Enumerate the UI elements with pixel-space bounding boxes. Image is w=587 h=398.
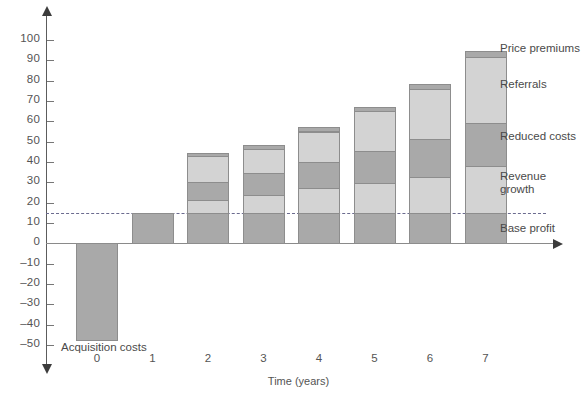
y-axis-tick-label: –10 xyxy=(0,256,40,268)
x-axis-tick-label: 1 xyxy=(132,352,174,364)
y-axis-tick-label: 0 xyxy=(0,235,40,247)
x-axis-title: Time (years) xyxy=(0,375,587,387)
y-axis-tick xyxy=(47,81,54,82)
annotation-revenue-growth: Revenue growth xyxy=(500,170,546,196)
bar-column xyxy=(243,0,285,398)
x-axis-tick-label: 0 xyxy=(76,352,118,364)
y-axis-tick-label: 60 xyxy=(0,113,40,125)
annotation-reduced-costs: Reduced costs xyxy=(500,130,576,143)
y-axis-tick-label: –50 xyxy=(0,337,40,349)
y-axis-tick xyxy=(47,142,54,143)
y-axis-tick-label: 20 xyxy=(0,195,40,207)
x-axis-arrow-right-icon xyxy=(553,239,563,249)
bar-segment xyxy=(187,200,229,214)
y-axis-line xyxy=(46,14,47,371)
annotation-price-premiums: Price premiums xyxy=(500,42,580,55)
y-axis-tick xyxy=(47,345,54,346)
x-axis-title-text: Time (years) xyxy=(268,375,329,387)
annotation-referrals: Referrals xyxy=(500,78,547,91)
bar-column xyxy=(465,0,507,398)
x-axis-tick-label: 6 xyxy=(409,352,451,364)
y-axis-tick xyxy=(47,304,54,305)
bar-segment xyxy=(298,127,340,132)
bar-column xyxy=(132,0,174,398)
y-axis-tick xyxy=(47,101,54,102)
bar-segment xyxy=(409,89,451,140)
y-axis-tick-label: 70 xyxy=(0,93,40,105)
y-axis-arrow-down-icon xyxy=(42,364,52,374)
bar-segment xyxy=(354,183,396,213)
bar-segment xyxy=(187,153,229,157)
bar-segment xyxy=(76,243,118,341)
bar-segment xyxy=(298,213,340,245)
bar-segment xyxy=(243,149,285,174)
bar-segment xyxy=(187,182,229,200)
y-axis-tick-label: 40 xyxy=(0,154,40,166)
bar-segment xyxy=(298,132,340,164)
x-axis-tick-label: 2 xyxy=(187,352,229,364)
bar-column xyxy=(298,0,340,398)
bar-segment xyxy=(354,213,396,245)
x-axis-tick-label: 3 xyxy=(243,352,285,364)
bar-segment xyxy=(409,177,451,214)
y-axis-tick xyxy=(47,223,54,224)
bar-segment xyxy=(187,156,229,183)
annotation-acquisition-costs: Acquisition costs xyxy=(61,341,147,353)
y-axis-tick xyxy=(47,182,54,183)
bar-segment xyxy=(354,107,396,112)
bar-column xyxy=(76,0,118,398)
y-axis-tick-label: –20 xyxy=(0,276,40,288)
bar-column xyxy=(187,0,229,398)
y-axis-tick xyxy=(47,284,54,285)
bar-column xyxy=(354,0,396,398)
bar-segment xyxy=(409,84,451,90)
bar-segment xyxy=(298,188,340,213)
bar-segment xyxy=(298,162,340,189)
y-axis-tick-label: 10 xyxy=(0,215,40,227)
y-axis-tick xyxy=(47,264,54,265)
y-axis-tick-label: 30 xyxy=(0,174,40,186)
x-axis-tick-label: 4 xyxy=(298,352,340,364)
y-axis-arrow-up-icon xyxy=(42,6,52,16)
profit-growth-stacked-bar-chart: 1009080706050403020100–10–20–30–40–50 01… xyxy=(0,0,587,398)
y-axis-tick xyxy=(47,162,54,163)
bar-segment xyxy=(243,145,285,150)
bar-segment xyxy=(187,213,229,245)
bar-segment xyxy=(409,213,451,245)
bar-segment xyxy=(409,139,451,179)
y-axis-tick xyxy=(47,121,54,122)
x-axis-tick-label: 5 xyxy=(354,352,396,364)
bar-segment xyxy=(243,213,285,245)
y-axis-tick xyxy=(47,60,54,61)
bar-segment xyxy=(243,195,285,214)
bar-segment xyxy=(354,111,396,152)
y-axis-tick xyxy=(47,203,54,204)
bar-segment xyxy=(243,173,285,195)
y-axis-tick-label: 90 xyxy=(0,52,40,64)
y-axis-tick-label: 50 xyxy=(0,134,40,146)
y-axis-tick-label: 100 xyxy=(0,32,40,44)
y-axis-tick xyxy=(47,325,54,326)
y-axis-tick-label: –40 xyxy=(0,317,40,329)
y-axis-tick-label: –30 xyxy=(0,296,40,308)
bar-column xyxy=(409,0,451,398)
y-axis-tick-label: 80 xyxy=(0,73,40,85)
bar-segment xyxy=(132,213,174,245)
annotation-base-profit: Base profit xyxy=(500,222,555,235)
y-axis-tick xyxy=(47,40,54,41)
bar-segment xyxy=(354,151,396,185)
x-axis-tick-label: 7 xyxy=(465,352,507,364)
